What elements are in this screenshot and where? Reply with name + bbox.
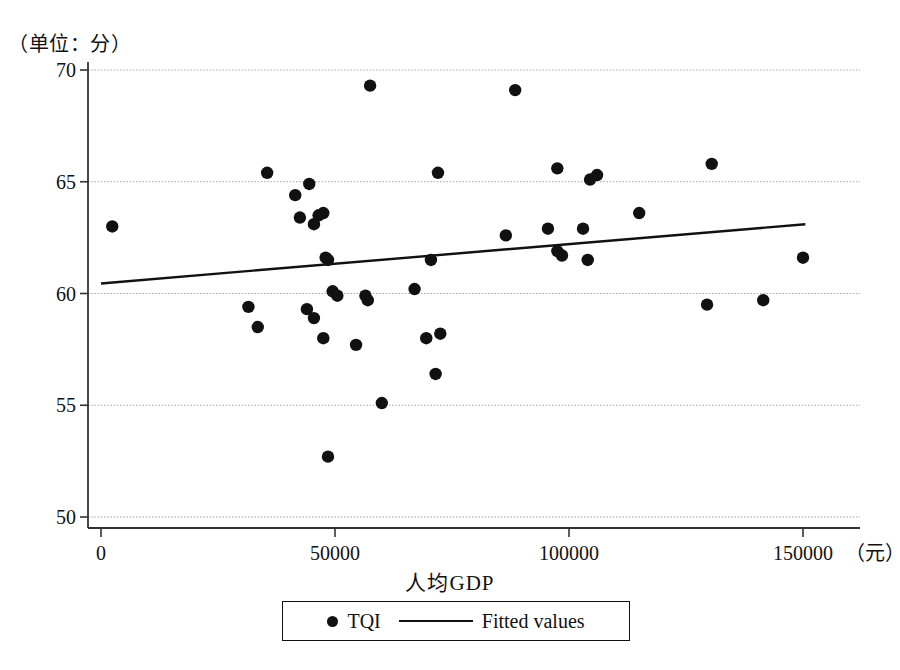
x-tick-label: 100000 [509, 543, 629, 563]
scatter-point [509, 84, 521, 96]
tick-marks-group [80, 70, 803, 537]
y-tick-label: 65 [30, 172, 76, 192]
scatter-point [362, 294, 374, 306]
x-axis-unit-label: （元） [845, 543, 900, 563]
chart-legend: TQI Fitted values [282, 601, 630, 641]
legend-label-fitted-values: Fitted values [482, 610, 585, 633]
x-axis-title: 人均GDP [0, 566, 900, 596]
scatter-point [582, 254, 594, 266]
scatter-point [577, 222, 589, 234]
fitted-line [101, 224, 805, 283]
scatter-point [556, 249, 568, 261]
scatter-point [376, 397, 388, 409]
scatter-point [303, 178, 315, 190]
scatter-point [331, 290, 343, 302]
scatter-point [294, 211, 306, 223]
scatter-point [106, 220, 118, 232]
scatter-point [289, 189, 301, 201]
y-tick-label: 70 [30, 60, 76, 80]
scatter-point [432, 167, 444, 179]
scatter-point [429, 368, 441, 380]
scatter-point [500, 229, 512, 241]
scatter-point [252, 321, 264, 333]
scatter-point [706, 158, 718, 170]
scatter-point [425, 254, 437, 266]
scatter-point [322, 450, 334, 462]
x-tick-label: 0 [41, 543, 161, 563]
scatter-point [797, 252, 809, 264]
scatter-point [261, 167, 273, 179]
scatter-point [701, 298, 713, 310]
legend-label-tqi: TQI [347, 610, 380, 633]
scatter-point [308, 312, 320, 324]
scatter-point [551, 162, 563, 174]
y-tick-label: 55 [30, 395, 76, 415]
scatter-point [591, 169, 603, 181]
fitted-values-line [101, 224, 805, 283]
scatter-point [322, 254, 334, 266]
scatter-point [633, 207, 645, 219]
scatter-point [542, 222, 554, 234]
axis-lines-group [88, 62, 860, 528]
scatter-point [408, 283, 420, 295]
scatter-point [434, 328, 446, 340]
scatter-point [364, 79, 376, 91]
scatter-point [317, 207, 329, 219]
legend-item-fitted-values: Fitted values [399, 610, 585, 633]
y-tick-label: 60 [30, 284, 76, 304]
line-segment-icon [399, 620, 473, 622]
scatter-point [420, 332, 432, 344]
scatter-point [757, 294, 769, 306]
scatter-point [242, 301, 254, 313]
scatter-point [350, 339, 362, 351]
legend-item-tqi: TQI [327, 610, 380, 633]
gridlines-group [88, 70, 860, 517]
scatter-point [317, 332, 329, 344]
y-tick-label: 50 [30, 507, 76, 527]
filled-circle-icon [327, 616, 338, 627]
x-tick-label: 50000 [275, 543, 395, 563]
scatter-chart-figure: （单位：分） 5055606570 050000100000150000 （元）… [0, 0, 900, 670]
